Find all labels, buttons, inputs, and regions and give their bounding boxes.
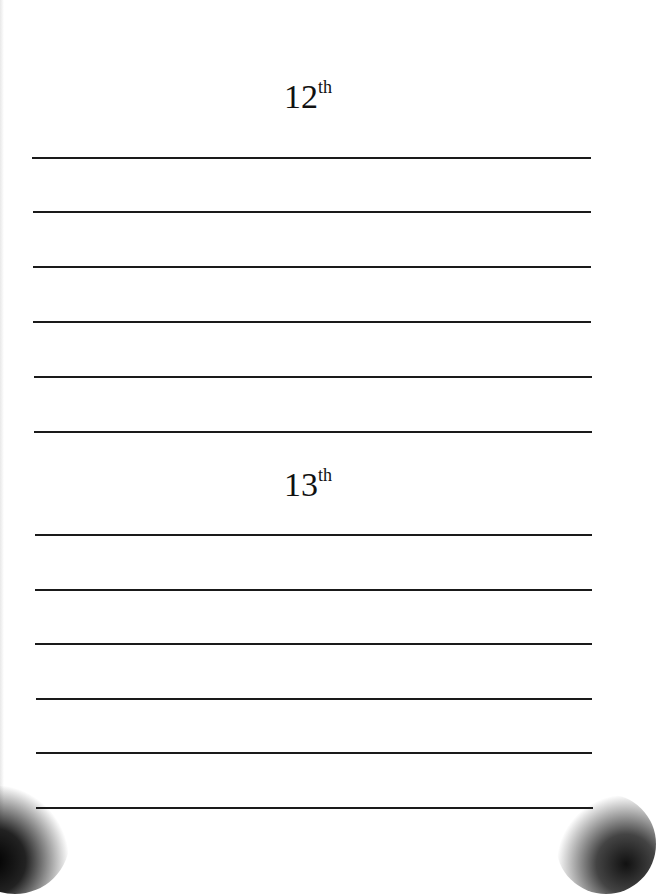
page-edge-shadow bbox=[0, 0, 4, 854]
day-number: 12 bbox=[284, 78, 318, 115]
writing-line bbox=[35, 589, 592, 591]
writing-line bbox=[33, 266, 591, 268]
day-number: 13 bbox=[284, 466, 318, 503]
writing-line bbox=[35, 534, 592, 536]
writing-line bbox=[36, 698, 592, 700]
section-heading-12: 12th bbox=[0, 80, 616, 114]
writing-line bbox=[34, 376, 592, 378]
writing-line bbox=[32, 157, 591, 159]
section-heading-13: 13th bbox=[0, 468, 616, 502]
writing-line bbox=[35, 643, 592, 645]
corner-shadow-bottom-left bbox=[0, 784, 70, 894]
corner-shadow-bottom-right bbox=[556, 794, 656, 894]
writing-line bbox=[36, 807, 593, 809]
writing-line bbox=[33, 211, 591, 213]
writing-line bbox=[36, 752, 592, 754]
writing-line bbox=[33, 321, 591, 323]
day-suffix: th bbox=[318, 465, 332, 485]
writing-line bbox=[34, 431, 592, 433]
day-suffix: th bbox=[318, 77, 332, 97]
